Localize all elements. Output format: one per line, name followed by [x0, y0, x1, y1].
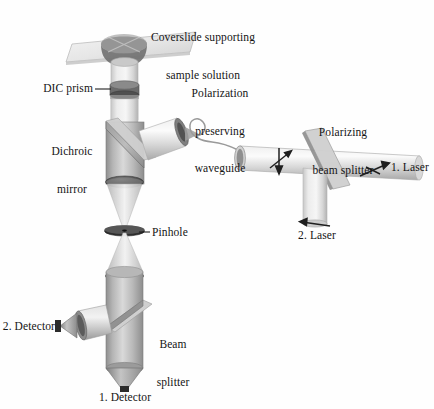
label-pbs-line2: beam splitter: [285, 164, 401, 177]
label-waveguide-line3: waveguide: [168, 162, 272, 175]
label-dichroic-mirror: Dichroic mirror: [36, 120, 108, 208]
label-beam-splitter: Beam splitter: [143, 313, 203, 401]
label-pbs-line1: Polarizing: [285, 126, 401, 139]
label-waveguide-line1: Polarization: [168, 87, 272, 100]
label-dic-prism: DIC prism: [15, 82, 93, 95]
label-detector-1: 1. Detector: [94, 391, 156, 404]
converging-beam-upper: [107, 184, 142, 228]
label-polarizing-beam-splitter: Polarizing beam splitter: [285, 101, 401, 189]
label-laser-2: 2. Laser: [288, 229, 346, 242]
label-beam-splitter-line1: Beam: [143, 338, 203, 351]
label-detector-2: 2. Detector: [0, 320, 55, 333]
label-coverslide-line1: Coverslide supporting: [128, 31, 278, 44]
label-waveguide: Polarization preserving waveguide: [168, 62, 272, 187]
label-laser-1: 1. Laser: [391, 161, 434, 174]
label-dichroic-line2: mirror: [36, 183, 108, 196]
label-waveguide-line2: preserving: [168, 125, 272, 138]
label-beam-splitter-line2: splitter: [143, 376, 203, 389]
label-pinhole: Pinhole: [152, 226, 210, 239]
detector2-branch-tube: [55, 305, 112, 341]
diagram-canvas: Coverslide supporting sample solution DI…: [0, 0, 434, 409]
detector-1-cone: [106, 362, 143, 392]
label-dichroic-line1: Dichroic: [36, 145, 108, 158]
